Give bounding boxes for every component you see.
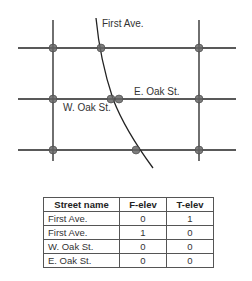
cell-street-name: W. Oak St. (44, 240, 120, 254)
label-w-oak-st: W. Oak St. (63, 103, 111, 113)
label-e-oak-st: E. Oak St. (134, 87, 180, 97)
node (97, 44, 105, 52)
table-row: First Ave. 1 0 (44, 226, 214, 240)
street-attribute-table: Street name F-elev T-elev First Ave. 0 1… (43, 197, 214, 268)
cell-t-elev: 0 (167, 240, 214, 254)
node-overpass-upper (115, 95, 123, 103)
label-first-ave: First Ave. (102, 19, 144, 29)
table-row: E. Oak St. 0 0 (44, 254, 214, 268)
node (49, 146, 57, 154)
node (195, 44, 203, 52)
table-row: W. Oak St. 0 0 (44, 240, 214, 254)
cell-street-name: First Ave. (44, 226, 120, 240)
cell-t-elev: 1 (167, 212, 214, 226)
header-street-name: Street name (44, 198, 120, 212)
cell-t-elev: 0 (167, 254, 214, 268)
header-f-elev: F-elev (120, 198, 167, 212)
node (49, 95, 57, 103)
node (195, 95, 203, 103)
cell-street-name: E. Oak St. (44, 254, 120, 268)
node (49, 44, 57, 52)
cell-f-elev: 1 (120, 226, 167, 240)
node (132, 146, 140, 154)
cell-f-elev: 0 (120, 254, 167, 268)
cell-t-elev: 0 (167, 226, 214, 240)
header-t-elev: T-elev (167, 198, 214, 212)
cell-street-name: First Ave. (44, 212, 120, 226)
table-row: First Ave. 0 1 (44, 212, 214, 226)
node (195, 146, 203, 154)
cell-f-elev: 0 (120, 240, 167, 254)
cell-f-elev: 0 (120, 212, 167, 226)
table-header-row: Street name F-elev T-elev (44, 198, 214, 212)
